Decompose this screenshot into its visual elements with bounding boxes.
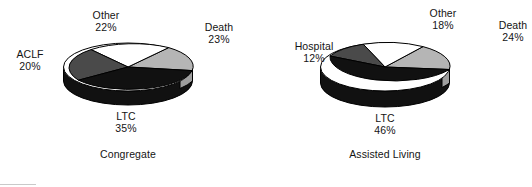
pie-label-hospital-name: Hospital xyxy=(295,40,334,52)
pie-label-death-name: Death xyxy=(205,21,234,33)
pie-label-ltc: LTC 35% xyxy=(98,111,154,134)
pie-label-other-pct: 18% xyxy=(411,20,475,32)
pie-label-other-name: Other xyxy=(430,7,457,19)
pie-label-hospital: Hospital 12% xyxy=(279,41,349,64)
pie-svg-congregate xyxy=(62,36,194,108)
pie-label-ltc: LTC 46% xyxy=(357,113,413,136)
pie-label-ltc-pct: 35% xyxy=(98,123,154,135)
pie-caption-assisted-living: Assisted Living xyxy=(323,148,447,160)
pie-panel-congregate: Other 22% Death 23% ACLF 20% LTC 35% Con… xyxy=(0,0,257,187)
pie-label-ltc-name: LTC xyxy=(375,112,394,124)
pie-label-other-pct: 22% xyxy=(74,22,138,34)
footer-rule xyxy=(0,184,36,185)
pie-label-aclf-pct: 20% xyxy=(2,61,58,73)
pie-label-death-name: Death xyxy=(499,19,528,31)
pie-label-other: Other 18% xyxy=(411,8,475,31)
pie-label-aclf: ACLF 20% xyxy=(2,49,58,72)
pie-chart-congregate xyxy=(62,36,194,108)
pie-label-ltc-pct: 46% xyxy=(357,125,413,137)
pie-caption-congregate: Congregate xyxy=(76,148,180,160)
pie-label-death-pct: 24% xyxy=(482,32,532,44)
pie-label-ltc-name: LTC xyxy=(116,110,135,122)
pie-label-other: Other 22% xyxy=(74,10,138,33)
pie-label-death: Death 24% xyxy=(482,20,532,43)
pie-label-aclf-name: ACLF xyxy=(16,48,43,60)
pie-panel-assisted-living: Other 18% Death 24% Hospital 12% LTC 46%… xyxy=(257,0,514,187)
pie-label-other-name: Other xyxy=(93,9,120,21)
pie-label-hospital-pct: 12% xyxy=(279,53,349,65)
pie-label-death-pct: 23% xyxy=(188,34,250,46)
pie-label-death: Death 23% xyxy=(188,22,250,45)
